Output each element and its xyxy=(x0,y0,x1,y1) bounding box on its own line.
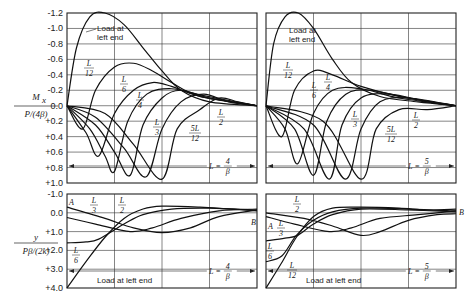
svg-text:β: β xyxy=(424,167,429,176)
svg-text:x: x xyxy=(41,95,46,105)
svg-text:6: 6 xyxy=(312,91,316,100)
y-tick-label: +1.0 xyxy=(45,178,63,188)
svg-text:Load at: Load at xyxy=(289,26,316,35)
svg-text:2: 2 xyxy=(120,206,124,215)
svg-text:5L: 5L xyxy=(387,125,396,134)
svg-text:L: L xyxy=(137,91,143,100)
svg-text:A: A xyxy=(267,222,273,231)
span-label: L = xyxy=(208,162,221,171)
svg-text:L: L xyxy=(413,111,419,120)
svg-text:2: 2 xyxy=(219,118,223,127)
svg-text:6: 6 xyxy=(122,85,126,94)
svg-text:L: L xyxy=(119,196,125,205)
svg-text:12: 12 xyxy=(85,69,93,78)
svg-text:L: L xyxy=(325,73,331,82)
svg-text:5L: 5L xyxy=(191,124,200,133)
svg-text:3: 3 xyxy=(154,128,159,137)
svg-text:left end: left end xyxy=(97,33,123,42)
svg-text:L: L xyxy=(154,118,160,127)
svg-text:left end: left end xyxy=(289,35,315,44)
y-tick-label: +4.0 xyxy=(45,283,63,293)
svg-text:L: L xyxy=(218,108,224,117)
y-tick-label: -0.6 xyxy=(47,54,63,64)
svg-text:A: A xyxy=(68,198,74,207)
svg-text:5: 5 xyxy=(425,262,429,271)
svg-text:L: L xyxy=(289,261,295,270)
svg-text:L: L xyxy=(86,59,92,68)
beam-on-elastic-foundation-chart: -1.2-1.0-0.8-0.6-0.4-0.20.0+0.2+0.4+0.6+… xyxy=(0,0,466,296)
svg-text:4: 4 xyxy=(326,83,330,92)
svg-text:2: 2 xyxy=(295,205,299,214)
svg-text:4: 4 xyxy=(138,101,142,110)
svg-text:M: M xyxy=(31,92,40,102)
y-tick-label: -1.2 xyxy=(47,8,63,18)
svg-text:6: 6 xyxy=(74,256,78,265)
y-tick-label: +1.0 xyxy=(45,227,63,237)
span-label: L = xyxy=(407,162,420,171)
svg-text:L: L xyxy=(278,219,284,228)
svg-text:3: 3 xyxy=(278,229,283,238)
y-tick-label: +0.2 xyxy=(45,116,63,126)
span-label: L = xyxy=(208,267,221,276)
svg-text:β: β xyxy=(225,272,230,281)
svg-text:Load at: Load at xyxy=(97,24,124,33)
y-tick-label: +0.4 xyxy=(45,132,63,142)
svg-text:L: L xyxy=(352,110,358,119)
svg-text:P/(4β): P/(4β) xyxy=(24,109,48,119)
svg-text:B: B xyxy=(251,218,256,227)
y-tick-label: -0.2 xyxy=(47,85,63,95)
svg-text:y: y xyxy=(33,232,38,242)
svg-text:β: β xyxy=(424,272,429,281)
y-tick-label: +3.0 xyxy=(45,264,63,274)
svg-text:2: 2 xyxy=(414,121,418,130)
y-tick-label: 0.0 xyxy=(50,208,63,218)
y-tick-label: -1.0 xyxy=(47,189,63,199)
svg-text:4: 4 xyxy=(226,157,230,166)
svg-text:β: β xyxy=(225,167,230,176)
svg-text:12: 12 xyxy=(288,271,296,280)
svg-text:L: L xyxy=(73,246,79,255)
svg-text:Load at left end: Load at left end xyxy=(306,276,361,285)
svg-text:B: B xyxy=(459,208,464,217)
svg-text:L: L xyxy=(311,81,317,90)
svg-text:12: 12 xyxy=(387,135,395,144)
svg-text:L: L xyxy=(91,196,97,205)
svg-text:3: 3 xyxy=(91,206,96,215)
svg-text:4: 4 xyxy=(226,262,230,271)
curves xyxy=(67,12,456,288)
y-tick-label: -1.0 xyxy=(47,23,63,33)
svg-text:12: 12 xyxy=(191,134,199,143)
y-tick-label: -0.4 xyxy=(47,70,63,80)
svg-text:Pβ/(2k): Pβ/(2k) xyxy=(22,246,50,256)
svg-text:L: L xyxy=(285,61,291,70)
y-tick-label: -0.8 xyxy=(47,39,63,49)
svg-text:Load at left end: Load at left end xyxy=(97,276,152,285)
svg-text:L: L xyxy=(267,242,273,251)
svg-text:3: 3 xyxy=(352,120,357,129)
svg-text:6: 6 xyxy=(268,252,272,261)
svg-text:5: 5 xyxy=(425,157,429,166)
svg-text:L: L xyxy=(121,75,127,84)
annotations-top-left: Load at left end L 12 L 6 L 4 L 3 5L 12 … xyxy=(84,24,225,143)
svg-text:L: L xyxy=(294,195,300,204)
y-tick-label: +0.6 xyxy=(45,147,63,157)
span-label: L = xyxy=(407,267,420,276)
y-tick-label: +0.8 xyxy=(45,163,63,173)
svg-text:12: 12 xyxy=(284,71,292,80)
